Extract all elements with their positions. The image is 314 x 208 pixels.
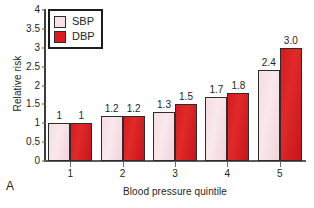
panel-letter: A bbox=[6, 180, 14, 192]
x-axis-tick-mark bbox=[280, 162, 281, 167]
y-axis-tick: 2 bbox=[34, 81, 40, 91]
bar-group: 1.71.8 bbox=[205, 10, 249, 161]
bar-dbp-q3[interactable] bbox=[175, 104, 197, 161]
bar-group: 1.31.5 bbox=[153, 10, 197, 161]
y-axis-tick: 0.5 bbox=[26, 137, 40, 147]
legend-label-sbp: SBP bbox=[72, 16, 94, 27]
y-axis-tick: 0 bbox=[34, 156, 40, 166]
bar-value-label: 1 bbox=[64, 111, 98, 121]
bar-dbp-q2[interactable] bbox=[123, 116, 145, 161]
bar-dbp-q4[interactable] bbox=[227, 93, 249, 161]
bar-sbp-q1[interactable] bbox=[48, 123, 70, 161]
y-axis-tick-mark bbox=[42, 123, 46, 124]
x-axis-tick-label: 3 bbox=[160, 168, 190, 179]
bar-sbp-q2[interactable] bbox=[101, 116, 123, 161]
legend-item-dbp: DBP bbox=[54, 29, 95, 44]
x-axis-tick-label: 1 bbox=[55, 168, 85, 179]
bar-dbp-q1[interactable] bbox=[70, 123, 92, 161]
y-axis-tick-mark bbox=[42, 161, 46, 162]
figure-panel-a: Relative risk 00.511.522.533.54 111.21.2… bbox=[0, 0, 314, 208]
bar-value-label: 1.8 bbox=[221, 81, 255, 91]
bar-value-label: 1.2 bbox=[117, 104, 151, 114]
y-axis-tick: 1 bbox=[34, 118, 40, 128]
bar-value-label: 3.0 bbox=[274, 36, 308, 46]
bar-dbp-q5[interactable] bbox=[280, 48, 302, 161]
y-axis-tick: 4 bbox=[34, 5, 40, 15]
y-axis-tick-labels: 00.511.522.533.54 bbox=[14, 5, 40, 161]
x-axis-tick-mark bbox=[175, 162, 176, 167]
y-axis-tick: 2.5 bbox=[26, 62, 40, 72]
y-axis-tick-mark bbox=[42, 28, 46, 29]
legend-swatch-dbp bbox=[54, 31, 66, 43]
x-axis-tick-label: 4 bbox=[212, 168, 242, 179]
y-axis-tick-mark bbox=[42, 66, 46, 67]
bar-value-label: 1.5 bbox=[169, 92, 203, 102]
y-axis-tick: 3 bbox=[34, 43, 40, 53]
legend-label-dbp: DBP bbox=[72, 31, 95, 42]
chart-legend: SBP DBP bbox=[48, 9, 103, 49]
x-axis-tick-label: 5 bbox=[265, 168, 295, 179]
x-axis-tick-mark bbox=[123, 162, 124, 167]
x-axis-label: Blood pressure quintile bbox=[44, 186, 306, 197]
bar-sbp-q4[interactable] bbox=[205, 97, 227, 161]
y-axis-tick-mark bbox=[42, 104, 46, 105]
bar-sbp-q5[interactable] bbox=[258, 70, 280, 161]
y-axis-tick: 3.5 bbox=[26, 24, 40, 34]
bar-group: 2.43.0 bbox=[258, 10, 302, 161]
x-axis-tick-label: 2 bbox=[108, 168, 138, 179]
y-axis-tick-mark bbox=[42, 85, 46, 86]
y-axis-tick-mark bbox=[42, 47, 46, 48]
y-axis-tick-mark bbox=[42, 142, 46, 143]
x-axis-tick-mark bbox=[70, 162, 71, 167]
x-axis-tick-mark bbox=[227, 162, 228, 167]
legend-item-sbp: SBP bbox=[54, 14, 95, 29]
bar-group: 1.21.2 bbox=[101, 10, 145, 161]
legend-swatch-sbp bbox=[54, 16, 66, 28]
y-axis-tick-mark bbox=[42, 10, 46, 11]
y-axis-tick: 1.5 bbox=[26, 99, 40, 109]
bar-sbp-q3[interactable] bbox=[153, 112, 175, 161]
